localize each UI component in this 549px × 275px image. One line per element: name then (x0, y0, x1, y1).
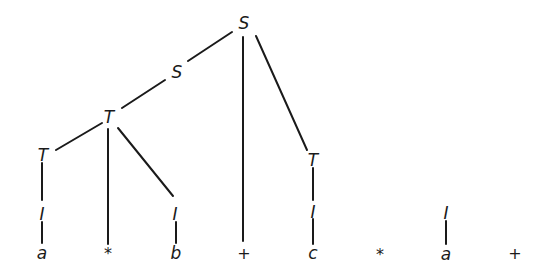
tree-edges (0, 0, 549, 275)
edge-S_mid-to-T_mid (122, 80, 165, 108)
node-leaf-a1: a (37, 245, 47, 262)
node-i-b: I (172, 206, 177, 223)
node-i-a2: I (443, 205, 448, 222)
node-leaf-star1: * (104, 246, 112, 262)
node-leaf-a2: a (441, 246, 451, 263)
node-leaf-c: c (308, 245, 317, 262)
node-s-mid: S (172, 64, 183, 81)
parse-tree-diagram: SSTTIa*Ib+TIc*Ia+ (0, 0, 549, 275)
edge-T_mid-to-T_left (56, 123, 102, 150)
edge-S_root-to-S_mid (188, 32, 232, 61)
node-i-c: I (310, 204, 315, 221)
node-leaf-plus1: + (237, 246, 250, 262)
node-leaf-star2: * (376, 247, 384, 263)
node-t-mid: T (104, 109, 114, 126)
node-s-root: S (239, 15, 250, 32)
node-t-left: T (38, 147, 48, 164)
node-leaf-b: b (171, 245, 182, 262)
node-t-right: T (308, 152, 318, 169)
node-i-a1: I (39, 206, 44, 223)
node-leaf-plus2: + (508, 246, 521, 262)
edge-S_root-to-T_right (256, 36, 307, 150)
edge-T_mid-to-I_b (118, 128, 173, 196)
